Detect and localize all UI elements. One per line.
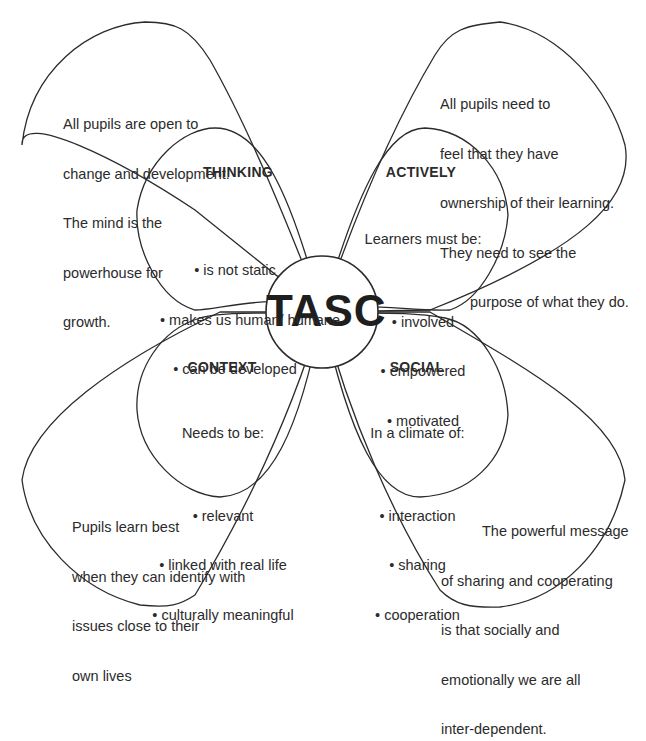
text-line: All pupils are open to (63, 116, 230, 133)
text-line: All pupils need to (440, 96, 629, 113)
intro-text: Needs to be: (143, 425, 303, 442)
petal-title-social: SOCIAL (372, 359, 462, 375)
petal-title-context: CONTEXT (167, 359, 277, 375)
text-line: is that socially and (441, 622, 629, 639)
text-line: Pupils learn best (72, 519, 245, 536)
petal-title-actively: ACTIVELY (366, 164, 476, 180)
text-line: inter-dependent. (441, 721, 629, 738)
text-line: feel that they have (440, 146, 629, 163)
intro-text: In a climate of: (355, 425, 480, 442)
text-line: The powerful message (441, 523, 629, 540)
outer-text-social: The powerful message of sharing and coop… (441, 490, 629, 741)
petal-title-thinking: THINKING (178, 164, 298, 180)
bullet-item: involved (343, 314, 503, 331)
bullet-item: is not static (160, 262, 310, 279)
bullet-item: makes us human/ humane (160, 312, 310, 329)
intro-text: Learners must be: (343, 231, 503, 248)
text-line: of sharing and cooperating (441, 573, 629, 590)
outer-text-context: Pupils learn best when they can identify… (72, 486, 245, 701)
text-line: when they can identify with (72, 569, 245, 586)
text-line: own lives (72, 668, 245, 685)
text-line: issues close to their (72, 618, 245, 635)
text-line: emotionally we are all (441, 672, 629, 689)
